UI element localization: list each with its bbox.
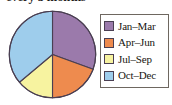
legend-item-jul-sep[interactable]: Jul–Sep: [104, 51, 166, 68]
swatch-apr-jun: [104, 38, 114, 48]
legend-item-apr-jun[interactable]: Apr–Jun: [104, 35, 166, 52]
legend-label-jan-mar: Jan–Mar: [118, 21, 155, 32]
figure-title: every 3 months: [6, 0, 98, 5]
pie-chart-svg: [8, 10, 97, 99]
swatch-jul-sep: [104, 54, 114, 64]
swatch-oct-dec: [104, 71, 114, 81]
legend-label-apr-jun: Apr–Jun: [118, 37, 155, 48]
swatch-jan-mar: [104, 21, 114, 31]
pie-chart: [8, 10, 97, 99]
legend-item-jan-mar[interactable]: Jan–Mar: [104, 18, 166, 35]
legend-label-jul-sep: Jul–Sep: [118, 54, 152, 65]
legend-item-oct-dec[interactable]: Oct–Dec: [104, 68, 166, 85]
pie-chart-figure: every 3 months Jan–Mar Apr–Jun Jul–Sep O…: [0, 0, 172, 105]
legend-label-oct-dec: Oct–Dec: [118, 70, 156, 81]
chart-legend: Jan–Mar Apr–Jun Jul–Sep Oct–Dec: [100, 14, 169, 88]
